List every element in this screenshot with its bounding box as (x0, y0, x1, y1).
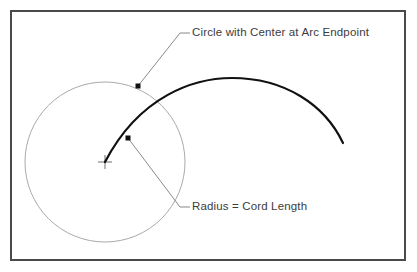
cord-midpoint-marker (126, 136, 131, 141)
bottom-label-text: Radius = Cord Length (192, 200, 307, 212)
diagram-background (0, 0, 417, 272)
arc-endpoint-marker (136, 84, 141, 89)
diagram-root: Circle with Center at Arc Endpoint Radiu… (0, 0, 417, 272)
diagram-canvas: Circle with Center at Arc Endpoint Radiu… (0, 0, 417, 272)
top-label-text: Circle with Center at Arc Endpoint (192, 26, 370, 38)
